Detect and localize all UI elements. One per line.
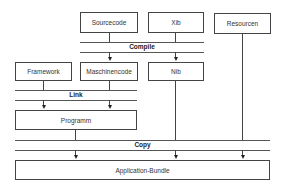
node-framework-label: Framework (27, 68, 60, 75)
stage-copy: Copy (15, 141, 270, 148)
connector-nib-copy (175, 81, 176, 140)
node-sourcecode: Sourcecode (80, 12, 138, 33)
node-sourcecode-label: Sourcecode (92, 19, 127, 26)
arrow-down-icon (42, 105, 46, 109)
node-application-bundle-label: Application-Bundle (115, 167, 169, 174)
connector-programm-copy (75, 130, 76, 140)
arrow-down-icon (241, 155, 245, 159)
node-maschinencode: Maschinencode (80, 62, 138, 81)
node-xib-label: Xib (171, 19, 180, 26)
node-nib-label: Nib (171, 68, 181, 75)
compile-line-bottom (80, 52, 204, 53)
arrow-down-icon (174, 57, 178, 61)
link-line-bottom (15, 100, 137, 101)
node-programm-label: Programm (61, 117, 91, 124)
arrow-down-icon (108, 105, 112, 109)
stage-link: Link (15, 91, 137, 98)
node-programm: Programm (15, 110, 137, 130)
connector-xib-compile (175, 33, 176, 42)
node-application-bundle: Application-Bundle (15, 160, 270, 180)
node-xib: Xib (148, 12, 204, 33)
connector-resourcen-copy (242, 34, 243, 140)
node-framework: Framework (15, 62, 72, 81)
connector-maschinencode-link (109, 81, 110, 90)
stage-compile: Compile (80, 43, 204, 50)
node-maschinencode-label: Maschinencode (86, 68, 132, 75)
connector-framework-link (43, 81, 44, 90)
arrow-down-icon (108, 57, 112, 61)
copy-line-bottom (15, 150, 270, 151)
node-resourcen: Resourcen (214, 13, 271, 34)
node-nib: Nib (148, 62, 204, 81)
arrow-down-icon (74, 155, 78, 159)
arrow-down-icon (174, 155, 178, 159)
node-resourcen-label: Resourcen (227, 20, 258, 27)
connector-sourcecode-compile (109, 33, 110, 42)
